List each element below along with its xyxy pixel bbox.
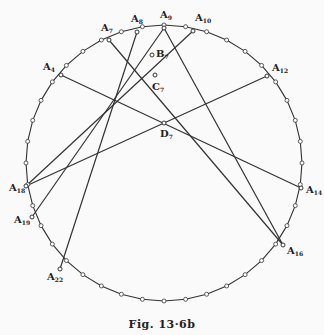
vertex-marker — [64, 63, 68, 67]
vertex-marker — [31, 118, 35, 122]
vertex-marker — [99, 284, 103, 288]
vertex-marker — [293, 118, 297, 122]
chord-line — [164, 28, 283, 245]
vertex-marker — [119, 30, 123, 34]
vertex-a16-label: A16 — [286, 245, 303, 257]
vertex-marker — [39, 224, 43, 228]
chord-line — [32, 28, 164, 217]
vertex-marker — [39, 98, 43, 102]
vertex-marker — [81, 49, 85, 53]
vertex-a12-label: A12 — [271, 62, 288, 74]
vertex-marker — [300, 161, 304, 165]
figure-caption: Fig. 13·6b — [0, 318, 324, 331]
point-d7-marker — [162, 121, 166, 125]
vertex-marker — [24, 161, 28, 165]
vertex-a10-marker — [191, 29, 195, 33]
vertex-a16-marker — [281, 243, 285, 247]
vertex-marker — [81, 273, 85, 277]
vertex-marker — [298, 139, 302, 143]
vertex-marker — [274, 80, 278, 84]
vertex-a7-marker — [107, 38, 111, 42]
vertex-marker — [140, 25, 144, 29]
vertex-a9-marker — [162, 26, 166, 30]
chord-line — [61, 75, 301, 188]
vertex-marker — [99, 38, 103, 42]
vertex-a22-label: A22 — [46, 271, 63, 283]
vertex-marker — [260, 63, 264, 67]
vertex-a4-marker — [59, 73, 63, 77]
vertex-marker — [243, 273, 247, 277]
vertex-marker — [225, 38, 229, 42]
vertex-a14-marker — [299, 186, 303, 190]
vertex-a22-marker — [58, 267, 62, 271]
vertex-marker — [64, 259, 68, 263]
vertex-marker — [50, 80, 54, 84]
point-d7-label: D7 — [160, 128, 173, 140]
vertex-marker — [260, 259, 264, 263]
vertex-a7-label: A7 — [100, 22, 113, 34]
vertex-marker — [162, 299, 166, 303]
chord-line — [26, 76, 267, 186]
vertex-marker — [184, 25, 188, 29]
vertex-marker — [243, 49, 247, 53]
vertex-marker — [140, 297, 144, 301]
chord-line — [60, 32, 137, 269]
vertex-marker — [26, 139, 30, 143]
vertex-marker — [205, 292, 209, 296]
vertex-a10-label: A10 — [194, 12, 211, 24]
vertex-marker — [285, 224, 289, 228]
vertex-a9-label: A9 — [159, 9, 172, 21]
point-c7-label: C7 — [152, 81, 164, 93]
vertex-marker — [225, 284, 229, 288]
vertex-marker — [119, 292, 123, 296]
vertex-a12-marker — [265, 74, 269, 78]
vertex-a18-label: A18 — [8, 182, 25, 194]
vertex-a14-label: A14 — [305, 184, 322, 196]
vertex-marker — [293, 204, 297, 208]
point-b7-marker — [150, 53, 154, 57]
point-b7-label: B7 — [156, 48, 169, 60]
vertex-a4-label: A4 — [42, 61, 55, 73]
vertex-a19-label: A19 — [13, 214, 30, 226]
vertex-a8-marker — [135, 30, 139, 34]
chord-line — [109, 40, 283, 245]
vertex-marker — [285, 98, 289, 102]
vertex-marker — [50, 242, 54, 246]
polygon-chord-diagram: A4A7A8A9A10A12A14A16A18A19A22B7C7D7 — [0, 0, 324, 335]
vertex-marker — [205, 30, 209, 34]
vertex-a19-marker — [30, 215, 34, 219]
vertex-marker — [184, 297, 188, 301]
vertex-a8-label: A8 — [130, 13, 143, 25]
vertex-marker — [274, 242, 278, 246]
point-c7-marker — [153, 73, 157, 77]
vertex-marker — [31, 204, 35, 208]
